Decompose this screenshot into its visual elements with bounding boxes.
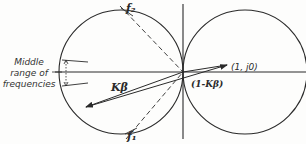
- k-beta-label: Kβ: [111, 82, 128, 93]
- side-label-line2: range of: [0, 68, 58, 79]
- f2-label: f₂: [126, 3, 136, 14]
- middle-range-label: Middle range of frequencies: [0, 57, 58, 90]
- diagram-canvas: f₂ f₁ Kβ (1-Kβ) (1, j0) Middle range of …: [0, 0, 306, 144]
- unit-vector: [183, 65, 227, 72]
- side-label-line1: Middle: [0, 57, 58, 68]
- f1-label: f₁: [127, 131, 137, 142]
- point-1-j0-label: (1, j0): [231, 63, 258, 72]
- side-label-line3: frequencies: [0, 79, 58, 90]
- one-minus-k-beta-label: (1-Kβ): [191, 80, 223, 89]
